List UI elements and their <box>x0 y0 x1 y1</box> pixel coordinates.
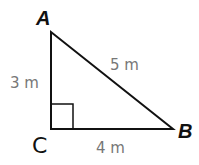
side-label-ac: 3 m <box>10 74 39 92</box>
triangle-diagram: A B C 3 m 5 m 4 m <box>0 0 199 165</box>
vertex-label-b: B <box>178 120 192 142</box>
right-angle-marker <box>51 104 73 129</box>
vertex-label-c: C <box>32 133 47 158</box>
vertex-label-a: A <box>35 7 50 29</box>
side-label-ab: 5 m <box>110 56 139 74</box>
triangle-abc <box>51 32 173 129</box>
side-label-cb: 4 m <box>96 139 125 157</box>
